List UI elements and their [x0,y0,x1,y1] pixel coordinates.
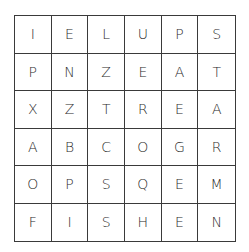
grid-cell[interactable]: T [88,91,125,129]
grid-cell[interactable]: A [198,91,235,129]
grid-cell[interactable]: E [52,16,89,54]
grid-cell[interactable]: G [162,129,199,167]
grid-cell[interactable]: Q [125,166,162,204]
grid-cell[interactable]: L [88,16,125,54]
grid-cell[interactable]: P [15,54,52,92]
grid-cell[interactable]: X [15,91,52,129]
grid-cell[interactable]: S [88,166,125,204]
grid-cell[interactable]: E [162,166,199,204]
grid-cell[interactable]: E [162,91,199,129]
grid-cell[interactable]: N [52,54,89,92]
grid-cell[interactable]: I [52,204,89,242]
grid-cell[interactable]: R [198,129,235,167]
grid-cell[interactable]: M [198,166,235,204]
grid-cell[interactable]: O [125,129,162,167]
word-search-grid: I E L U P S P N Z E A T X Z T R E A A B … [14,15,236,242]
grid-cell[interactable]: Z [52,91,89,129]
grid-cell[interactable]: E [125,54,162,92]
grid-cell[interactable]: S [88,204,125,242]
grid-cell[interactable]: P [52,166,89,204]
grid-cell[interactable]: S [198,16,235,54]
grid-cell[interactable]: R [125,91,162,129]
grid-cell[interactable]: A [15,129,52,167]
grid-cell[interactable]: H [125,204,162,242]
grid-cell[interactable]: N [198,204,235,242]
grid-cell[interactable]: P [162,16,199,54]
grid-cell[interactable]: O [15,166,52,204]
grid-cell[interactable]: Z [88,54,125,92]
grid-cell[interactable]: C [88,129,125,167]
grid-cell[interactable]: E [162,204,199,242]
grid-cell[interactable]: F [15,204,52,242]
grid-cell[interactable]: U [125,16,162,54]
grid-cell[interactable]: I [15,16,52,54]
grid-cell[interactable]: A [162,54,199,92]
grid-cell[interactable]: B [52,129,89,167]
grid-cell[interactable]: T [198,54,235,92]
